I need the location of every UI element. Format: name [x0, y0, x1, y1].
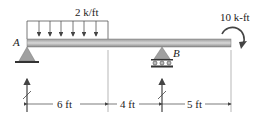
dimension-label-1: 6 ft: [57, 98, 72, 110]
distributed-load-label: 2 k/ft: [75, 6, 99, 18]
beam-diagram: 2 k/ft A B 10 k-ft: [0, 0, 259, 124]
reaction-a-arrow: [23, 79, 31, 112]
support-a-label: A: [12, 36, 20, 48]
moment-label: 10 k-ft: [220, 11, 250, 23]
reaction-b-arrow: [158, 79, 166, 112]
beam: [27, 39, 231, 47]
dimension-label-2: 4 ft: [120, 98, 135, 110]
support-b-roller: B: [151, 47, 180, 68]
distributed-load: 2 k/ft: [27, 6, 108, 39]
support-b-label: B: [173, 47, 180, 59]
dimension-label-3: 5 ft: [187, 98, 202, 110]
